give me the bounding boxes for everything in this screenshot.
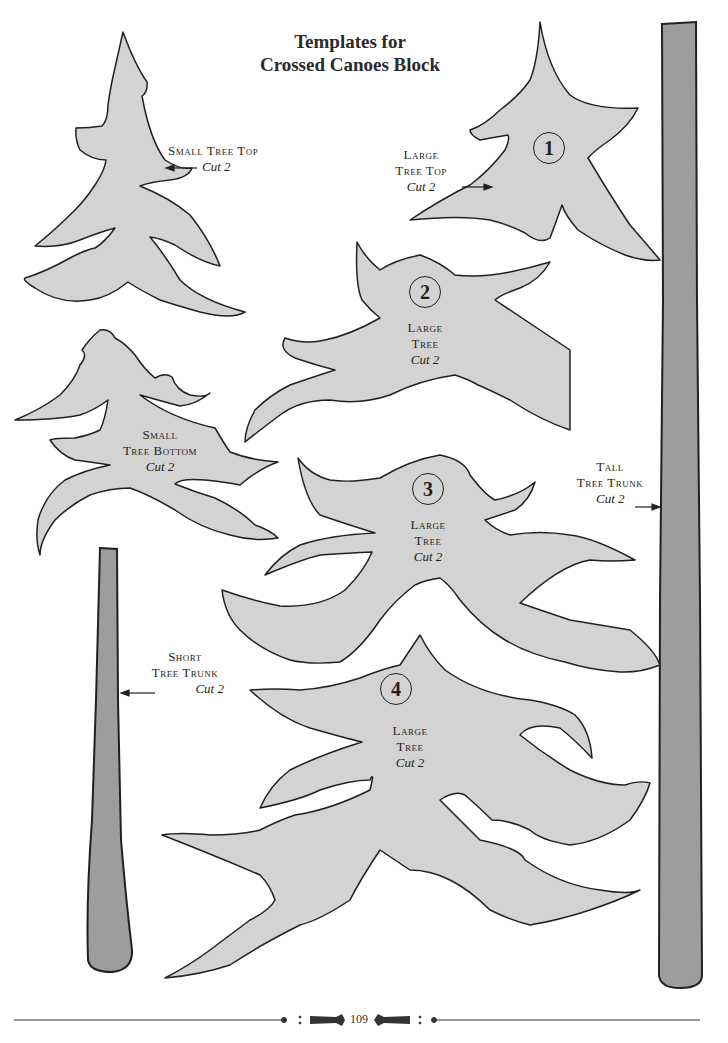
page-title: Templates for Crossed Canoes Block [200,30,500,76]
label-cut: Cut 2 [168,159,258,175]
page-number: 109 [346,1012,372,1027]
large-tree-3-label: Large Tree Cut 2 [393,517,463,565]
label-cut: Cut 2 [562,491,658,507]
large-tree-4-label: Large Tree Cut 2 [375,723,445,771]
template-number-3: 3 [412,473,444,505]
template-number-2: 2 [409,276,441,308]
label-name: Large [375,723,445,739]
label-name: Large [390,320,460,336]
label-name-2: Tree Trunk [140,665,230,681]
template-number-4: 4 [380,673,412,705]
short-tree-trunk-shape [88,548,133,972]
label-cut: Cut 2 [140,681,230,697]
title-line-1: Templates for [200,30,500,53]
label-name-2: Tree Bottom [105,443,215,459]
label-name: Large [393,517,463,533]
label-cut: Cut 2 [390,352,460,368]
label-cut: Cut 2 [393,549,463,565]
short-tree-trunk-label: Short Tree Trunk Cut 2 [140,649,230,697]
label-name-2: Tree Top [378,163,464,179]
large-tree-top-label: Large Tree Top Cut 2 [378,147,464,195]
label-name-2: Tree [393,533,463,549]
label-name-2: Tree Trunk [562,475,658,491]
tall-tree-trunk-label: Tall Tree Trunk Cut 2 [562,459,658,507]
title-line-2: Crossed Canoes Block [200,53,500,76]
label-name: Small Tree Top [168,143,258,159]
label-name: Small [105,427,215,443]
label-name-2: Tree [375,739,445,755]
label-cut: Cut 2 [375,755,445,771]
label-name: Large [378,147,464,163]
small-tree-bottom-label: Small Tree Bottom Cut 2 [105,427,215,475]
label-name: Tall [562,459,658,475]
template-number-1: 1 [533,132,565,164]
large-tree-2-label: Large Tree Cut 2 [390,320,460,368]
label-cut: Cut 2 [378,179,464,195]
tall-tree-trunk-shape [659,22,702,988]
label-name-2: Tree [390,336,460,352]
label-name: Short [140,649,230,665]
template-artwork [0,0,728,1043]
small-tree-top-label: Small Tree Top Cut 2 [168,143,258,175]
label-cut: Cut 2 [105,459,215,475]
